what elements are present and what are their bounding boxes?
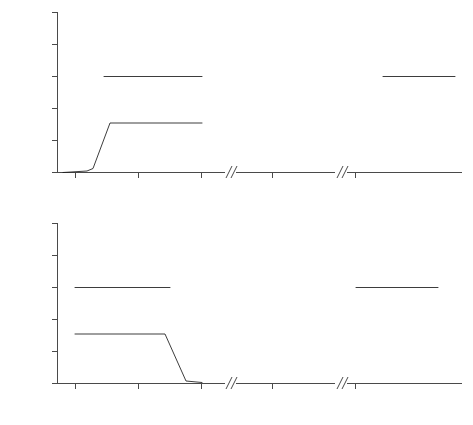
bottom-panel-y-axis xyxy=(52,223,58,384)
figure-container xyxy=(0,0,473,425)
bottom-panel-x-axis xyxy=(58,377,463,389)
top-panel xyxy=(52,12,462,178)
bottom-seg1-f1-trajectory xyxy=(75,334,202,383)
top-seg1-f1-trajectory xyxy=(63,123,202,173)
top-panel-y-axis xyxy=(52,12,58,173)
spectrogram-schematic-figure xyxy=(0,0,473,425)
axis-break-1-icon xyxy=(226,377,237,389)
axis-break-2-icon xyxy=(337,166,348,178)
top-panel-x-axis xyxy=(58,166,463,178)
bottom-panel xyxy=(52,223,462,389)
axis-break-1-icon xyxy=(226,166,237,178)
axis-break-2-icon xyxy=(337,377,348,389)
